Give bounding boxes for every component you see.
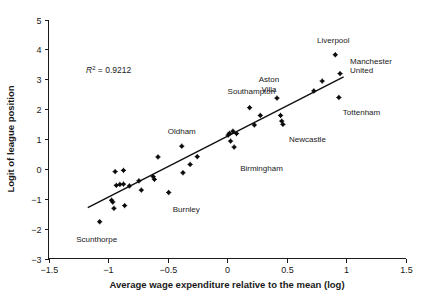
x-axis-title: Average wage expenditure relative to the…	[109, 279, 344, 290]
y-tick-label: 1	[36, 135, 41, 145]
x-tick-label: −0.5	[160, 265, 178, 275]
x-tick-label: 0.5	[281, 265, 294, 275]
data-point-label-line: Manchester	[350, 57, 392, 66]
data-point-label: Oldham	[168, 127, 196, 136]
y-tick-label: 3	[36, 75, 41, 85]
data-point-label: Burnley	[173, 205, 200, 214]
x-tick-label: −1.5	[41, 265, 59, 275]
y-tick-label: −3	[31, 255, 41, 265]
x-tick-label: 0	[225, 265, 230, 275]
data-point-label: Tottenham	[343, 108, 381, 117]
x-tick-label: 1.5	[400, 265, 413, 275]
data-point-label-line: Villa	[261, 85, 277, 94]
y-tick-label: 5	[36, 16, 41, 26]
data-point-label: Birmingham	[240, 164, 283, 173]
data-point-label-line: Aston	[259, 75, 279, 84]
chart-background	[0, 0, 429, 301]
data-point-label: Newcastle	[289, 135, 326, 144]
data-point-label: Liverpool	[317, 36, 350, 45]
y-tick-label: 4	[36, 45, 41, 55]
x-tick-label: −1	[103, 265, 113, 275]
y-tick-label: −1	[31, 195, 41, 205]
y-tick-label: −2	[31, 225, 41, 235]
x-tick-label: 1	[344, 265, 349, 275]
r-squared-value: = 0.9212	[95, 65, 131, 75]
y-tick-label: 2	[36, 105, 41, 115]
y-axis-title: Logit of league position	[5, 85, 16, 192]
scatter-chart-figure: 543210−1−2−3 −1.5−1−0.500.511.5 Scunthor…	[0, 0, 429, 301]
data-point-label-line: United	[350, 66, 373, 75]
data-point-label: AstonVilla	[259, 75, 279, 94]
chart-canvas: 543210−1−2−3 −1.5−1−0.500.511.5 Scunthor…	[0, 0, 429, 301]
y-tick-label: 0	[36, 165, 41, 175]
data-point-label: Scunthorpe	[76, 235, 117, 244]
